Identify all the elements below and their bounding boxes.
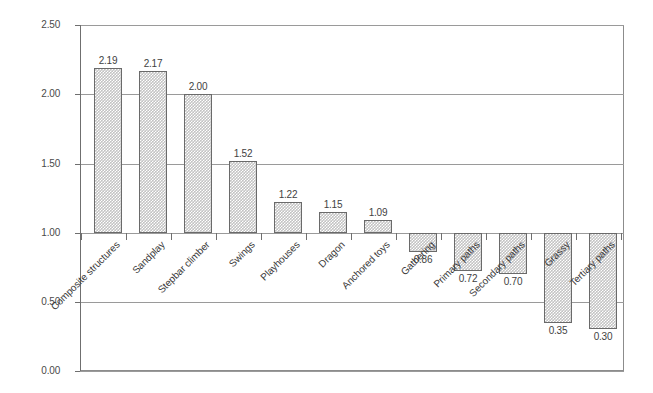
y-axis-label-5: 2.50 <box>20 20 60 30</box>
x-tick-11 <box>576 233 577 240</box>
x-tick-2 <box>171 233 172 240</box>
value-label-0: 2.19 <box>88 55 128 66</box>
y-axis-label-4: 2.00 <box>20 89 60 99</box>
y-tick-1.00 <box>75 233 80 234</box>
gridline-2.50 <box>80 25 624 26</box>
value-label-1: 2.17 <box>133 58 173 69</box>
y-tick-2.50 <box>75 25 80 26</box>
bar-4 <box>274 202 302 232</box>
y-axis-line <box>80 25 81 371</box>
x-tick-7 <box>396 233 397 240</box>
x-tick-0 <box>81 233 82 240</box>
value-label-4: 1.22 <box>268 189 308 200</box>
bar-2 <box>184 94 212 232</box>
bar-6 <box>364 220 392 232</box>
y-axis-label-0: 0.00 <box>20 366 60 376</box>
x-tick-6 <box>351 233 352 240</box>
gridline-0.00 <box>80 371 624 372</box>
bar-3 <box>229 161 257 233</box>
value-label-5: 1.15 <box>313 199 353 210</box>
x-tick-10 <box>531 233 532 240</box>
y-tick-1.50 <box>75 164 80 165</box>
value-label-3: 1.52 <box>223 148 263 159</box>
bar-chart: 0.00 0.50 1.00 1.50 2.00 2.50 2.19Compos… <box>0 0 653 393</box>
bar-5 <box>319 212 347 233</box>
x-tick-1 <box>126 233 127 240</box>
value-label-9: 0.70 <box>493 276 533 287</box>
y-tick-0.00 <box>75 371 80 372</box>
y-tick-2.00 <box>75 94 80 95</box>
x-tick-5 <box>306 233 307 240</box>
value-label-10: 0.35 <box>538 325 578 336</box>
x-tick-8 <box>441 233 442 240</box>
y-axis-label-2: 1.00 <box>20 228 60 238</box>
y-tick-0.50 <box>75 302 80 303</box>
y-axis-label-3: 1.50 <box>20 159 60 169</box>
value-label-11: 0.30 <box>583 331 623 342</box>
bar-0 <box>94 68 122 233</box>
x-tick-4 <box>261 233 262 240</box>
bar-1 <box>139 71 167 233</box>
value-label-6: 1.09 <box>358 207 398 218</box>
value-label-2: 2.00 <box>178 81 218 92</box>
gridline-1.00 <box>80 233 624 234</box>
x-tick-12 <box>621 233 622 240</box>
gridline-0.50 <box>80 302 624 303</box>
x-tick-3 <box>216 233 217 240</box>
x-tick-9 <box>486 233 487 240</box>
